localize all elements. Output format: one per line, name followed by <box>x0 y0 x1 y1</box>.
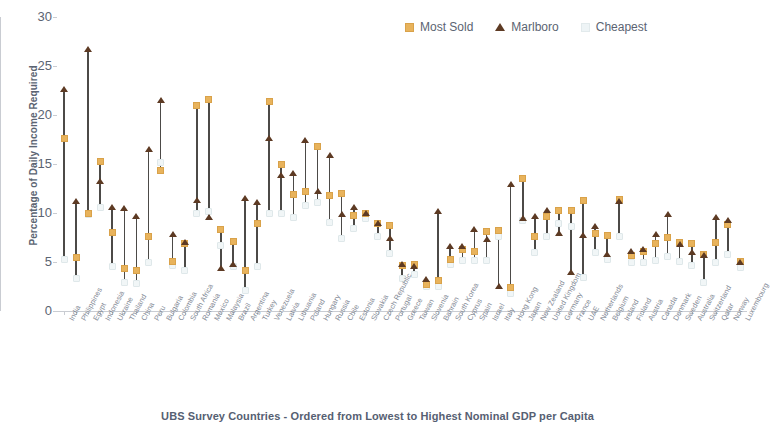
marlboro-marker <box>543 207 551 213</box>
cheapest-marker <box>555 220 562 227</box>
x-axis-title: UBS Survey Countries - Ordered from Lowe… <box>0 410 755 422</box>
marlboro-marker <box>277 172 285 178</box>
marlboro-marker <box>676 241 684 247</box>
marlboro-marker <box>386 235 394 241</box>
range-stem <box>510 184 512 294</box>
most-sold-marker <box>435 277 442 284</box>
most-sold-marker <box>664 234 671 241</box>
cheapest-marker <box>374 233 381 240</box>
marlboro-marker <box>422 276 430 282</box>
marlboro-marker <box>495 283 503 289</box>
cheapest-marker <box>652 257 659 264</box>
marlboro-marker <box>458 243 466 249</box>
cheapest-marker <box>688 262 695 269</box>
most-sold-marker <box>193 102 200 109</box>
cheapest-marker <box>181 267 188 274</box>
marlboro-marker <box>205 214 213 220</box>
most-sold-marker <box>133 267 140 274</box>
cheapest-marker <box>278 210 285 217</box>
marlboro-marker <box>446 243 454 249</box>
range-stem <box>329 155 331 223</box>
y-tick-label: 25 <box>26 59 52 72</box>
most-sold-marker <box>543 213 550 220</box>
marlboro-marker <box>736 259 744 265</box>
cheapest-marker <box>616 233 623 240</box>
range-stem <box>582 200 584 277</box>
most-sold-marker <box>97 158 104 165</box>
most-sold-marker <box>592 230 599 237</box>
range-stem <box>268 101 270 213</box>
cheapest-marker <box>483 257 490 264</box>
x-tick-mark <box>64 311 65 315</box>
most-sold-marker <box>254 220 261 227</box>
marlboro-marker <box>241 195 249 201</box>
cheapest-marker <box>290 214 297 221</box>
cheapest-marker <box>97 204 104 211</box>
y-tick-mark <box>53 311 57 312</box>
cheapest-marker <box>592 249 599 256</box>
most-sold-marker <box>61 135 68 142</box>
marlboro-marker <box>181 239 189 245</box>
marlboro-marker <box>350 204 358 210</box>
cheapest-marker <box>724 251 731 258</box>
range-stem <box>99 161 101 207</box>
most-sold-marker <box>169 258 176 265</box>
cheapest-marker <box>145 259 152 266</box>
most-sold-marker <box>242 267 249 274</box>
cheapest-marker <box>350 225 357 232</box>
most-sold-marker <box>205 96 212 103</box>
legend-item-label: Marlboro <box>511 20 558 34</box>
legend-item-label: Most Sold <box>420 20 473 34</box>
marlboro-marker <box>72 198 80 204</box>
marlboro-marker <box>193 197 201 203</box>
marlboro-marker <box>507 181 515 187</box>
cheapest-marker <box>73 275 80 282</box>
y-tick-mark <box>53 164 57 165</box>
most-sold-marker <box>652 240 659 247</box>
marlboro-marker <box>410 263 418 269</box>
range-stem <box>244 198 246 290</box>
legend-item: Marlboro <box>495 20 558 34</box>
marlboro-marker <box>603 251 611 257</box>
y-tick-label: 10 <box>26 206 52 219</box>
cheapest-marker <box>157 159 164 166</box>
y-tick-mark <box>53 262 57 263</box>
marlboro-marker <box>591 223 599 229</box>
range-stem <box>75 201 77 278</box>
range-stem <box>570 210 572 272</box>
marlboro-marker <box>398 261 406 267</box>
range-stem <box>111 207 113 267</box>
cheapest-marker <box>664 253 671 260</box>
most-sold-marker <box>290 191 297 198</box>
most-sold-marker <box>447 256 454 263</box>
marlboro-marker <box>289 170 297 176</box>
cheapest-marker <box>543 233 550 240</box>
range-stem <box>148 149 150 263</box>
square-marker-icon <box>405 23 414 32</box>
marlboro-marker <box>229 261 237 267</box>
most-sold-marker <box>278 161 285 168</box>
y-tick-mark <box>53 17 57 18</box>
marlboro-marker <box>253 199 261 205</box>
marlboro-marker <box>483 236 491 242</box>
marlboro-marker <box>579 232 587 238</box>
most-sold-marker <box>507 284 514 291</box>
cheapest-marker <box>326 219 333 226</box>
cheapest-marker <box>121 279 128 286</box>
y-axis-line <box>0 17 1 311</box>
marlboro-marker <box>157 97 165 103</box>
most-sold-marker <box>157 167 164 174</box>
y-tick-label: 0 <box>26 304 52 317</box>
most-sold-marker <box>471 248 478 255</box>
most-sold-marker <box>85 210 92 217</box>
y-tick-label: 15 <box>26 157 52 170</box>
marlboro-marker <box>531 213 539 219</box>
cheapest-marker <box>242 287 249 294</box>
marlboro-marker <box>120 205 128 211</box>
marlboro-marker <box>652 231 660 237</box>
range-stem <box>87 49 89 215</box>
cheapest-marker <box>314 199 321 206</box>
marlboro-marker <box>700 252 708 258</box>
most-sold-marker <box>266 98 273 105</box>
